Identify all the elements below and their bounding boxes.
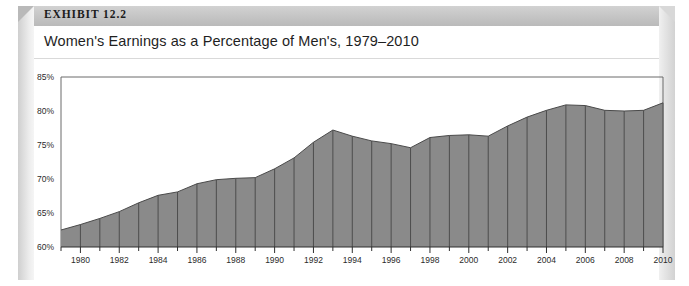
chart-plot-area: 85%80%75%70%65%60%1980198219841986198819… [0,0,689,286]
x-axis-tick-label: 2008 [615,255,634,265]
area-series-fill [61,103,663,247]
y-axis-tick-label: 80% [37,106,54,116]
x-axis-tick-label: 2002 [498,255,517,265]
x-axis-tick-label: 2000 [459,255,478,265]
x-axis-tick-label: 2004 [537,255,556,265]
y-axis-tick-label: 70% [37,174,54,184]
y-axis-tick-label: 60% [37,242,54,252]
x-axis-tick-label: 1984 [149,255,168,265]
x-axis-tick-label: 1992 [304,255,323,265]
x-axis-tick-label: 1986 [187,255,206,265]
exhibit-container: EXHIBIT 12.2 Women's Earnings as a Perce… [0,0,689,286]
area-chart-svg: 85%80%75%70%65%60%1980198219841986198819… [0,0,689,286]
y-axis-tick-label: 75% [37,140,54,150]
y-axis-tick-label: 85% [37,72,54,82]
x-axis-tick-label: 1996 [382,255,401,265]
y-axis-tick-label: 65% [37,208,54,218]
x-axis-tick-label: 1998 [421,255,440,265]
x-axis-tick-label: 1994 [343,255,362,265]
x-axis-tick-label: 1982 [110,255,129,265]
x-axis-tick-label: 1980 [71,255,90,265]
x-axis-tick-label: 2010 [654,255,673,265]
x-axis-tick-label: 2006 [576,255,595,265]
x-axis-tick-label: 1988 [226,255,245,265]
x-axis-tick-label: 1990 [265,255,284,265]
